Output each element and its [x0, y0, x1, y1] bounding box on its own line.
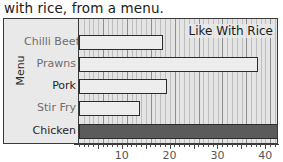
x-tick-minor [275, 144, 276, 147]
x-tick-minor [270, 144, 271, 147]
category-label-chilli-beef: Chilli Beef [24, 35, 76, 49]
x-tick-minor [141, 144, 142, 147]
category-label-chicken: Chicken [24, 124, 76, 138]
x-axis-label-40: 40 [254, 149, 276, 162]
x-axis: 10203040 [74, 144, 279, 162]
x-tick-minor [79, 144, 80, 147]
x-tick-minor [222, 144, 223, 147]
x-tick-minor [260, 144, 261, 147]
x-tick-minor [251, 144, 252, 147]
plot-area: Like With Rice [78, 19, 277, 143]
x-tick-minor [179, 144, 180, 147]
x-tick-major [98, 144, 99, 149]
chart-frame: Menu Chilli BeefPrawnsPorkStir FryChicke… [3, 18, 278, 144]
x-tick-minor [155, 144, 156, 147]
category-label-stir-fry: Stir Fry [24, 101, 76, 115]
chart-page: with rice, from a menu. Menu Chilli Beef… [0, 0, 283, 162]
x-tick-major [241, 144, 242, 149]
x-tick-minor [107, 144, 108, 147]
x-tick-minor [203, 144, 204, 147]
x-axis-label-20: 20 [159, 149, 181, 162]
bar-chilli-beef [79, 35, 163, 50]
x-tick-minor [84, 144, 85, 147]
bar-pork [79, 79, 167, 94]
bar-stir-fry [79, 101, 140, 116]
x-axis-line [74, 144, 279, 145]
x-tick-minor [184, 144, 185, 147]
x-tick-minor [213, 144, 214, 147]
chart-title: with rice, from a menu. [4, 0, 279, 17]
x-tick-minor [174, 144, 175, 147]
x-tick-minor [150, 144, 151, 147]
x-tick-minor [237, 144, 238, 147]
bar-chicken [79, 124, 277, 139]
x-tick-minor [103, 144, 104, 147]
x-tick-minor [127, 144, 128, 147]
bar-prawns [79, 57, 258, 72]
x-tick-minor [131, 144, 132, 147]
x-tick-major [146, 144, 147, 149]
x-axis-label-30: 30 [206, 149, 228, 162]
category-label-pork: Pork [24, 79, 76, 93]
category-label-prawns: Prawns [24, 57, 76, 71]
x-tick-minor [160, 144, 161, 147]
x-tick-minor [208, 144, 209, 147]
x-tick-major [194, 144, 195, 149]
x-tick-minor [189, 144, 190, 147]
x-tick-minor [256, 144, 257, 147]
x-tick-minor [88, 144, 89, 147]
x-tick-minor [165, 144, 166, 147]
x-tick-minor [232, 144, 233, 147]
x-tick-minor [227, 144, 228, 147]
x-axis-label-10: 10 [111, 149, 133, 162]
x-tick-minor [112, 144, 113, 147]
x-tick-minor [246, 144, 247, 147]
chart-annotation: Like With Rice [188, 24, 274, 38]
x-tick-minor [93, 144, 94, 147]
category-axis-labels: Chilli BeefPrawnsPorkStir FryChicken [24, 19, 76, 143]
x-tick-minor [136, 144, 137, 147]
x-tick-minor [117, 144, 118, 147]
x-tick-minor [198, 144, 199, 147]
